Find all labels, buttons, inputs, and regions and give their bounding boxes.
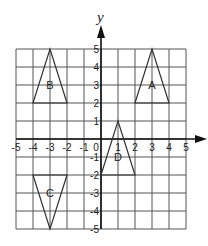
x-tick-label: 4 — [166, 142, 172, 153]
y-axis-arrow-icon — [97, 25, 105, 38]
coordinate-grid: ABCD -5-4-3-2-101234554321-1-2-3-4-5 y — [0, 0, 208, 246]
y-tick-label: 4 — [93, 62, 99, 73]
x-tick-label: 3 — [149, 142, 155, 153]
x-tick-label: -1 — [80, 142, 89, 153]
x-tick-label: -4 — [29, 142, 38, 153]
shape-label-b: B — [46, 79, 53, 91]
shape-label-a: A — [148, 79, 156, 91]
x-tick-label: 5 — [183, 142, 189, 153]
x-tick-label: 1 — [115, 142, 121, 153]
y-tick-label: 1 — [93, 116, 99, 127]
y-tick-label: -1 — [90, 152, 99, 163]
y-tick-label: -2 — [90, 170, 99, 181]
x-tick-label: -2 — [63, 142, 72, 153]
x-tick-label: 2 — [132, 142, 138, 153]
y-tick-label: -4 — [90, 206, 99, 217]
y-tick-label: -3 — [90, 188, 99, 199]
y-tick-label: 3 — [93, 80, 99, 91]
x-tick-label: -3 — [46, 142, 55, 153]
y-axis-label: y — [95, 9, 104, 25]
y-tick-label: 2 — [93, 98, 99, 109]
x-axis-arrow-icon — [195, 135, 207, 143]
y-tick-label: -5 — [90, 224, 99, 235]
axes — [16, 25, 207, 229]
shape-label-c: C — [46, 187, 54, 199]
x-tick-label: -5 — [12, 142, 21, 153]
y-tick-label: 5 — [93, 44, 99, 55]
